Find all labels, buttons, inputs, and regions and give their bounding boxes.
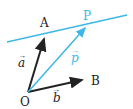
arrow-over-a: → <box>18 51 26 60</box>
vector-diagram: A P B O a → p → b → <box>0 0 133 109</box>
label-P: P <box>83 9 91 23</box>
line-through-a-parallel <box>7 15 127 42</box>
label-O: O <box>20 95 30 109</box>
arrow-over-b: → <box>52 85 60 94</box>
label-A: A <box>39 16 49 30</box>
arrow-over-p: → <box>71 46 79 55</box>
label-B: B <box>91 74 100 88</box>
